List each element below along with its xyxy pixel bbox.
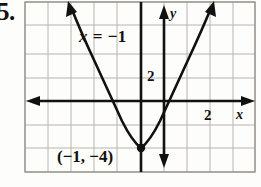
- x-axis-label: x: [236, 107, 243, 123]
- y-axis-label: y: [170, 6, 176, 22]
- line-equation-value: = −1: [88, 27, 127, 46]
- graph-figure: 5.: [0, 0, 261, 187]
- vertex-coordinate-label: (−1, −4): [57, 147, 113, 167]
- line-equation-label: x = −1: [79, 27, 127, 47]
- vertex-dot: [137, 144, 145, 152]
- x-axis-tick-label-2: 2: [204, 107, 212, 124]
- y-axis-tick-label-2: 2: [147, 68, 155, 85]
- line-equation-variable: x: [79, 27, 88, 46]
- coordinate-plane-graph: [0, 0, 261, 187]
